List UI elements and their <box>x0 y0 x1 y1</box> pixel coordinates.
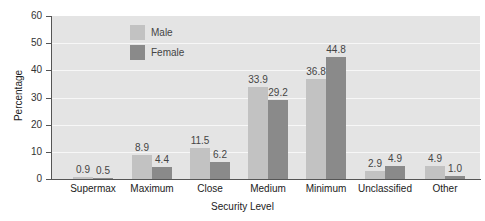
gridline <box>52 43 480 44</box>
bar-female <box>210 162 230 179</box>
y-tick <box>46 16 51 17</box>
value-label: 1.0 <box>440 163 470 174</box>
bar-female <box>385 166 405 179</box>
y-tick <box>46 152 51 153</box>
y-tick-label: 20 <box>22 119 42 130</box>
legend-swatch-female <box>130 45 145 60</box>
y-tick-label: 10 <box>22 146 42 157</box>
value-label: 11.5 <box>185 135 215 146</box>
value-label: 4.9 <box>380 153 410 164</box>
bar-female <box>268 100 288 179</box>
y-tick <box>46 125 51 126</box>
y-tick <box>46 98 51 99</box>
legend-swatch-male <box>130 25 145 40</box>
value-label: 33.9 <box>243 74 273 85</box>
value-label: 4.9 <box>420 153 450 164</box>
y-tick-label: 40 <box>22 64 42 75</box>
y-tick-label: 60 <box>22 10 42 21</box>
bar-female <box>326 57 346 179</box>
gridline <box>52 70 480 71</box>
y-tick <box>46 43 51 44</box>
bar-male <box>365 171 385 179</box>
y-tick-label: 0 <box>22 173 42 184</box>
legend-label-female: Female <box>151 47 184 58</box>
legend-label-male: Male <box>151 27 173 38</box>
plot-area: 0.90.58.94.411.56.233.929.236.844.82.94.… <box>52 16 480 179</box>
bar-male <box>306 79 326 179</box>
y-tick <box>46 70 51 71</box>
x-axis-line <box>51 179 481 180</box>
y-tick-label: 50 <box>22 37 42 48</box>
y-tick-label: 30 <box>22 92 42 103</box>
value-label: 0.5 <box>88 165 118 176</box>
bar-female <box>152 167 172 179</box>
y-tick <box>46 179 51 180</box>
value-label: 6.2 <box>205 149 235 160</box>
value-label: 4.4 <box>147 154 177 165</box>
value-label: 29.2 <box>263 87 293 98</box>
x-axis-title: Security Level <box>0 201 485 212</box>
value-label: 8.9 <box>127 142 157 153</box>
value-label: 44.8 <box>321 44 351 55</box>
x-category-label: Other <box>410 183 480 194</box>
y-axis-line <box>51 16 52 180</box>
bar-male <box>248 87 268 179</box>
